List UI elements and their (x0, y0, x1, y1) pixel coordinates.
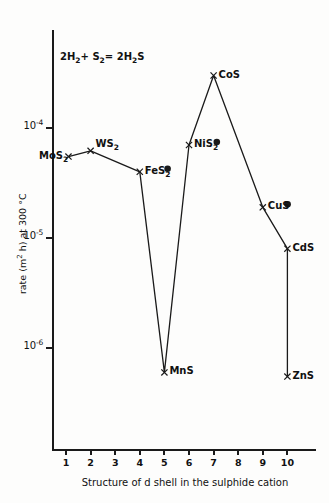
cross-marker-stroke (284, 373, 290, 379)
y-axis-title-pre: rate (m (17, 259, 28, 294)
point-label-subscript: 2 (213, 143, 218, 152)
x-tick-label: 10 (281, 458, 294, 468)
x-tick-1: 1 (65, 449, 67, 455)
x-tick-6: 6 (188, 449, 190, 455)
point-label-FeS2: FeS2 (145, 166, 171, 179)
reaction-term-c: = 2H (105, 51, 132, 62)
point-label-MoS2: MoS2 (39, 151, 68, 164)
point-label-text: FeS (145, 165, 165, 176)
point-label-text: WS (96, 138, 114, 149)
plot-area (0, 0, 329, 503)
x-axis-line (52, 449, 316, 451)
cross-marker-stroke (88, 148, 94, 154)
x-tick-label: 2 (87, 458, 94, 468)
data-line (69, 76, 288, 377)
point-label-WS2: WS2 (96, 139, 119, 152)
x-tick-3: 3 (114, 449, 116, 455)
point-label-text: CoS (219, 69, 240, 80)
y-tick-exponent: -5 (36, 228, 43, 237)
cross-marker-stroke (186, 142, 192, 148)
x-tick-label: 9 (259, 458, 266, 468)
cross-marker-stroke (211, 72, 217, 78)
marker-MnS (161, 369, 167, 375)
y-axis-title: rate (m2 h) at 300 °C (17, 169, 29, 319)
y-tick-10-6: 10-6 (46, 347, 53, 349)
point-label-text: ZnS (292, 370, 314, 381)
point-label-CuS: CuS (268, 201, 290, 211)
point-label-text: NiS (194, 138, 213, 149)
cross-marker-stroke (260, 204, 266, 210)
point-label-subscript: 2 (114, 143, 119, 152)
point-label-subscript: 2 (165, 170, 170, 179)
point-label-CoS: CoS (219, 70, 240, 80)
x-tick-label: 8 (235, 458, 242, 468)
x-tick-label: 4 (136, 458, 143, 468)
x-tick-label: 5 (161, 458, 168, 468)
y-tick-exponent: -6 (36, 338, 43, 347)
point-label-text: CuS (268, 200, 290, 211)
y-tick-exponent: -4 (36, 118, 43, 127)
cross-marker-stroke (161, 369, 167, 375)
cross-marker-stroke (88, 148, 94, 154)
x-tick-2: 2 (90, 449, 92, 455)
reaction-term-a: 2H (60, 51, 75, 62)
reaction-annotation: 2H2+ S2= 2H2S (60, 52, 144, 65)
x-tick-4: 4 (139, 449, 141, 455)
cross-marker-stroke (161, 369, 167, 375)
x-tick-label: 7 (210, 458, 217, 468)
point-label-ZnS: ZnS (292, 371, 314, 381)
x-tick-label: 1 (63, 458, 70, 468)
x-tick-label: 3 (112, 458, 119, 468)
x-tick-9: 9 (262, 449, 264, 455)
point-label-NiS2: NiS2 (194, 139, 218, 152)
point-label-text: MnS (169, 365, 193, 376)
x-axis-title: Structure of d shell in the sulphide cat… (52, 478, 318, 488)
y-tick-label: 10-6 (24, 339, 46, 351)
y-axis-title-sup: 2 (16, 254, 24, 258)
y-tick-10-4: 10-4 (46, 127, 53, 129)
y-tick-base: 10 (24, 120, 36, 131)
cross-marker-stroke (211, 72, 217, 78)
cross-marker-stroke (137, 169, 143, 175)
y-axis-title-post: h) at 300 °C (17, 193, 28, 254)
x-tick-10: 10 (286, 449, 288, 455)
cross-marker-stroke (186, 142, 192, 148)
reaction-term-d: S (137, 51, 144, 62)
point-label-subscript: 2 (63, 155, 68, 164)
cross-marker-stroke (260, 204, 266, 210)
marker-WS2 (88, 148, 94, 154)
y-axis-line (52, 30, 54, 450)
point-label-text: MoS (39, 150, 63, 161)
cross-marker-stroke (137, 169, 143, 175)
point-label-CdS: CdS (292, 243, 314, 253)
cross-marker-stroke (284, 246, 290, 252)
x-tick-5: 5 (163, 449, 165, 455)
data-markers (65, 72, 291, 379)
reaction-term-b: + S (81, 51, 100, 62)
y-tick-base: 10 (24, 340, 36, 351)
y-tick-label: 10-4 (24, 119, 46, 131)
marker-CoS (211, 72, 217, 78)
x-tick-label: 6 (186, 458, 193, 468)
y-tick-10-5: 10-5 (46, 237, 53, 239)
sulphide-rate-chart: 2H2+ S2= 2H2S 10-410-510-6 12345678910 r… (0, 0, 329, 503)
x-tick-8: 8 (237, 449, 239, 455)
point-label-MnS: MnS (169, 366, 193, 376)
marker-CdS (284, 246, 290, 252)
cross-marker-stroke (284, 246, 290, 252)
marker-ZnS (284, 373, 290, 379)
cross-marker-stroke (284, 373, 290, 379)
x-tick-7: 7 (213, 449, 215, 455)
point-label-text: CdS (292, 242, 314, 253)
